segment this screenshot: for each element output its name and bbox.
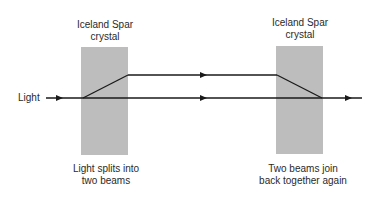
caption-left: Light splits into two beams	[58, 163, 154, 187]
crystal-left	[81, 47, 128, 155]
arrow-right-icon	[200, 72, 207, 78]
arrow-right-icon	[345, 95, 352, 101]
caption-left-line2: two beams	[58, 175, 154, 187]
caption-left-line1: Light splits into	[58, 163, 154, 175]
crystal-right	[276, 46, 323, 154]
crystal-right-label-line1: Iceland Spar	[259, 17, 341, 29]
crystal-right-label-line2: crystal	[259, 29, 341, 41]
caption-right-line1: Two beams join	[245, 163, 361, 175]
crystal-left-label-line2: crystal	[64, 31, 146, 43]
light-label: Light	[18, 92, 40, 104]
arrow-right-icon	[200, 95, 207, 101]
crystal-right-label: Iceland Spar crystal	[259, 17, 341, 41]
caption-right-line2: back together again	[245, 175, 361, 187]
crystal-left-label: Iceland Spar crystal	[64, 19, 146, 43]
crystal-left-label-line1: Iceland Spar	[64, 19, 146, 31]
arrow-right-icon	[56, 95, 63, 101]
caption-right: Two beams join back together again	[245, 163, 361, 187]
